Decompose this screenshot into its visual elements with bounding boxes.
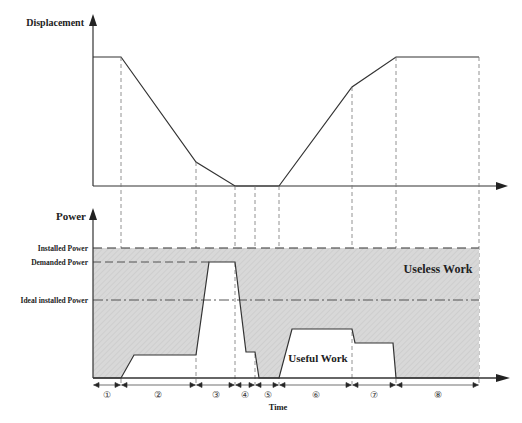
useful-work-label: Useful Work	[288, 352, 348, 364]
phase-5-label: ⑤	[264, 390, 272, 400]
phase-4-label: ④	[241, 390, 249, 400]
time-axis-arrow-icon	[496, 374, 510, 382]
time-axis-label: Time	[269, 402, 288, 412]
demanded-power-label: Demanded Power	[31, 258, 89, 267]
phase-2-label: ②	[154, 390, 162, 400]
phase-labels: ① ② ③ ④ ⑤ ⑥ ⑦ ⑧	[103, 390, 442, 400]
phase-7-label: ⑦	[370, 390, 378, 400]
phase-1-label: ①	[103, 390, 111, 400]
phase-dimension-lines	[93, 383, 479, 388]
displacement-axis-label: Displacement	[26, 17, 84, 28]
displacement-panel: Displacement	[26, 14, 508, 190]
ideal-installed-power-label: Ideal installed Power	[21, 296, 89, 305]
power-axis-arrow-icon	[89, 208, 97, 220]
displacement-curve	[93, 57, 479, 186]
phase-6-label: ⑥	[312, 390, 320, 400]
displacement-axis-arrow-icon	[89, 14, 97, 26]
power-panel: Power Installed Power Demanded Power Ide…	[21, 208, 511, 412]
displacement-x-arrow-icon	[496, 182, 508, 190]
installed-power-label: Installed Power	[38, 244, 89, 253]
diagram-canvas: Displacement Power Installed Power Deman…	[0, 0, 522, 423]
phase-8-label: ⑧	[434, 390, 442, 400]
power-axis-label: Power	[56, 210, 86, 222]
useless-work-label: Useless Work	[404, 262, 473, 276]
phase-3-label: ③	[212, 390, 220, 400]
